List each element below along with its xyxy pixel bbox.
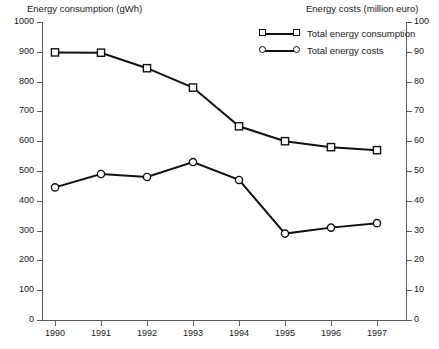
legend-item-consumption: Total energy consumption xyxy=(258,26,415,40)
data-point-square xyxy=(97,49,104,56)
data-point-square xyxy=(281,138,288,145)
data-point-circle xyxy=(143,173,150,180)
data-point-square xyxy=(373,147,380,154)
data-point-circle xyxy=(281,230,288,237)
data-point-square xyxy=(189,84,196,91)
data-point-square xyxy=(327,144,334,151)
chart-legend: Total energy consumption Total energy co… xyxy=(258,26,415,57)
data-point-circle xyxy=(97,170,104,177)
legend-label-costs: Total energy costs xyxy=(307,45,384,56)
data-point-circle xyxy=(189,158,196,165)
data-point-square xyxy=(51,49,58,56)
data-point-square xyxy=(143,65,150,72)
legend-item-costs: Total energy costs xyxy=(258,43,415,57)
energy-chart: Energy consumption (gWh) Energy costs (m… xyxy=(0,0,439,349)
legend-label-consumption: Total energy consumption xyxy=(307,28,415,39)
data-point-circle xyxy=(327,224,334,231)
legend-marker-square xyxy=(258,27,302,39)
data-point-circle xyxy=(51,184,58,191)
data-point-circle xyxy=(235,176,242,183)
data-point-square xyxy=(235,123,242,130)
data-point-circle xyxy=(373,220,380,227)
legend-marker-circle xyxy=(258,44,302,56)
series-line xyxy=(55,52,377,150)
